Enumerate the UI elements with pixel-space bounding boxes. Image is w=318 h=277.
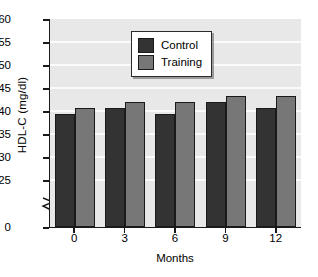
bar-control (206, 102, 226, 227)
bar-control (155, 114, 175, 227)
x-tick-mark (275, 228, 277, 233)
x-tick-label: 0 (59, 232, 89, 244)
bar-group (256, 19, 296, 227)
y-tick-label: 45 (0, 83, 11, 95)
y-tick-label: 35 (0, 129, 11, 141)
legend-label: Training (161, 57, 202, 69)
chart-legend: Control Training (131, 31, 212, 77)
chart-figure: HDL-C (mg/dl) 60 55 50 45 40 35 30 25 0 (0, 0, 318, 277)
x-tick-label: 3 (110, 232, 140, 244)
legend-entry-control: Control (138, 37, 202, 54)
y-tick-label: 40 (0, 106, 11, 118)
y-tick-label: 55 (0, 37, 11, 49)
x-tick-mark (225, 228, 227, 233)
legend-swatch-control (138, 38, 154, 53)
bar-training (226, 96, 246, 227)
bar-training (125, 102, 145, 227)
bar-control (256, 108, 276, 227)
x-tick-mark (124, 228, 126, 233)
x-axis-title: Months (49, 252, 301, 264)
y-tick-label: 25 (0, 175, 11, 187)
legend-label: Control (161, 40, 198, 52)
y-tick-label: 50 (0, 60, 11, 72)
legend-entry-training: Training (138, 54, 202, 71)
bar-training (175, 102, 195, 227)
y-tick-label: 60 (0, 14, 11, 26)
x-tick-label: 9 (210, 232, 240, 244)
bar-group (55, 19, 95, 227)
x-tick-label: 12 (261, 232, 291, 244)
x-tick-mark (73, 228, 75, 233)
bar-control (105, 108, 125, 227)
y-axis-title: HDL-C (mg/dl) (16, 35, 28, 195)
x-tick-labels: 0 3 6 9 12 (49, 232, 301, 244)
y-tick-label: 30 (0, 152, 11, 164)
bar-training (75, 108, 95, 227)
y-tick-label: 0 (0, 222, 11, 234)
bar-control (55, 114, 75, 227)
x-tick-label: 6 (160, 232, 190, 244)
x-tick-mark (174, 228, 176, 233)
legend-swatch-training (138, 55, 154, 70)
bar-training (276, 96, 296, 227)
